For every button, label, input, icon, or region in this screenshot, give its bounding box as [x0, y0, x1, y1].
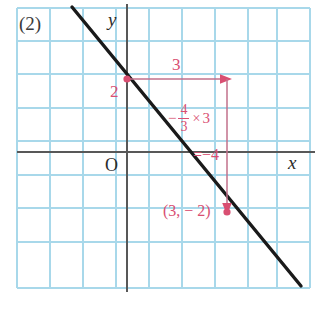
solution-point [223, 208, 230, 215]
y-intercept-point [123, 75, 130, 82]
fraction-denominator: 3 [178, 119, 189, 134]
multiplication-sign: × [192, 112, 200, 126]
y-intercept-value-label: 2 [110, 83, 119, 100]
y-axis-label: y [108, 10, 116, 29]
x-axis-label: x [288, 153, 296, 172]
rise-multiplier: 3 [202, 111, 210, 126]
rise-expression: − 4 3 × 3 [168, 103, 210, 134]
rise-arrow [222, 79, 232, 215]
rise-fraction: 4 3 [178, 103, 189, 134]
run-value-label: 3 [172, 56, 181, 73]
plotted-line [72, 7, 301, 286]
run-arrow [127, 74, 232, 84]
fraction-numerator: 4 [178, 103, 189, 118]
coordinate-plane [0, 0, 322, 316]
problem-number: (2) [19, 14, 41, 33]
rise-minus-sign: − [168, 111, 176, 126]
origin-label: O [105, 156, 118, 174]
rise-result-label: =−4 [193, 147, 219, 163]
graph-figure: (2) y x O 2 3 − 4 3 × 3 =−4 (3, − 2) [0, 0, 322, 316]
solution-point-label: (3, − 2) [163, 203, 211, 219]
